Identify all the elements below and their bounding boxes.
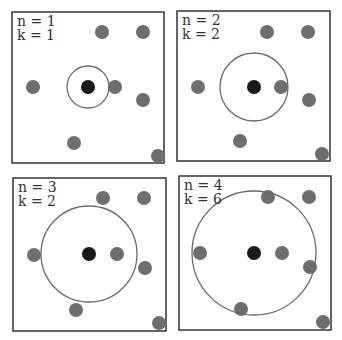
query-point (247, 246, 261, 260)
data-point (152, 316, 166, 330)
k-label: k = 2 (18, 193, 56, 209)
data-point (137, 191, 151, 205)
data-point (108, 80, 122, 94)
k-label: k = 2 (182, 26, 220, 42)
panel-n3: n = 3k = 2 (13, 178, 166, 331)
panel-n2: n = 2k = 2 (177, 11, 330, 161)
data-point (274, 80, 288, 94)
data-point (193, 246, 207, 260)
data-point (136, 25, 150, 39)
data-point (136, 93, 150, 107)
query-point (82, 247, 96, 261)
data-point (275, 246, 289, 260)
data-point (95, 25, 109, 39)
query-point (81, 80, 95, 94)
k-label: k = 6 (184, 191, 222, 207)
data-point (138, 261, 152, 275)
knn-diagram: n = 1k = 1 n = 2k = 2 n = 3k = 2 n = 4k … (0, 0, 342, 340)
data-point (27, 248, 41, 262)
data-point (260, 25, 274, 39)
data-point (315, 147, 329, 161)
data-point (316, 315, 330, 329)
data-point (67, 136, 81, 150)
panel-n4: n = 4k = 6 (179, 176, 331, 330)
k-label: k = 1 (17, 27, 55, 43)
data-point (26, 80, 40, 94)
data-point (302, 190, 316, 204)
data-point (301, 25, 315, 39)
panel-n1: n = 1k = 1 (12, 12, 165, 163)
data-point (96, 191, 110, 205)
data-point (302, 93, 316, 107)
data-point (191, 80, 205, 94)
data-point (110, 247, 124, 261)
query-point (247, 80, 261, 94)
data-point (151, 149, 165, 163)
data-point (69, 303, 83, 317)
data-point (233, 134, 247, 148)
